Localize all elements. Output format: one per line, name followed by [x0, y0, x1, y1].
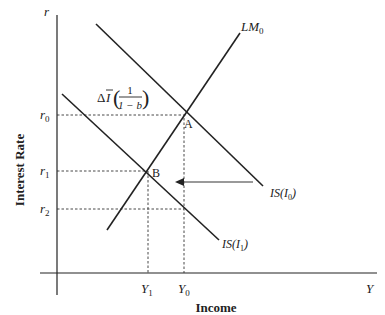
is-lm-diagram: r Y Interest Rate Income r0 r1 r2 Y1 Y0 … — [0, 0, 385, 315]
point-b-label: B — [152, 166, 160, 180]
shift-arrow-head — [175, 178, 184, 186]
x-axis-symbol: Y — [366, 281, 375, 296]
is0-label: IS(I0) — [269, 186, 296, 202]
delta-symbol: Δ — [97, 90, 105, 105]
guide-lines — [57, 115, 186, 273]
y-axis-title: Interest Rate — [12, 134, 27, 207]
fraction-denominator: 1 − b — [118, 99, 142, 111]
fraction-numerator: 1 — [127, 84, 133, 96]
is1-curve — [62, 94, 219, 240]
y1-label: Y1 — [141, 281, 153, 298]
x-axis-title: Income — [195, 300, 236, 315]
r0-label: r0 — [40, 107, 50, 124]
point-a-label: A — [184, 117, 193, 131]
lm0-curve — [107, 33, 240, 230]
y0-label: Y0 — [178, 281, 190, 298]
lm0-label: LM0 — [240, 19, 264, 36]
i-bar-symbol: I — [105, 90, 111, 105]
is1-label: IS(I1) — [221, 237, 248, 253]
multiplier-annotation: Δ I ( 1 1 − b ) — [97, 84, 149, 111]
y-axis-symbol: r — [44, 4, 50, 19]
r2-label: r2 — [40, 201, 50, 218]
r1-label: r1 — [40, 163, 50, 180]
right-paren: ) — [142, 85, 149, 110]
